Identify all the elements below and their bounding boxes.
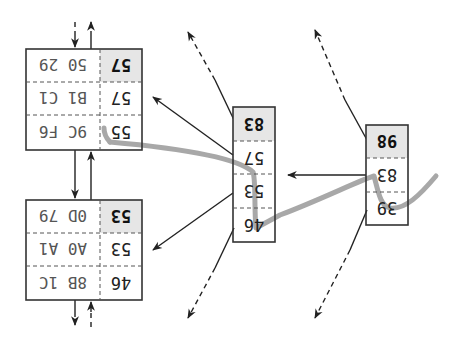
leaf-node-bottom: 53 0D 79 53 A0 A1 46 8B 1C — [26, 200, 142, 300]
root-key-0: 98 — [377, 131, 397, 151]
leaf-top-value-2: 9C F6 — [39, 122, 87, 141]
leaf-bottom-value-1: A0 A1 — [39, 239, 87, 258]
leaf-bottom-key-1: 53 — [111, 239, 131, 259]
edge-root-down-dashed — [315, 250, 350, 318]
edge-internal-up-solid — [215, 80, 234, 120]
edge-internal-up-dashed — [188, 32, 215, 80]
edge-internal-down-dashed — [188, 268, 215, 318]
leaf-top-value-0: 50 29 — [39, 55, 87, 74]
root-key-1: 83 — [377, 165, 397, 185]
leaf-bottom-key-0: 53 — [111, 206, 131, 226]
btree-diagram: 98 83 39 83 57 53 46 57 50 29 57 B1 C1 5… — [0, 0, 455, 339]
internal-key-2: 53 — [244, 181, 264, 201]
highlight-path-tip — [104, 128, 110, 142]
root-key-2: 39 — [377, 198, 397, 218]
internal-key-3: 46 — [244, 215, 264, 235]
internal-key-1: 57 — [244, 148, 264, 168]
edge-internal-to-leaf-bottom — [153, 193, 233, 250]
leaf-bottom-value-0: 0D 79 — [39, 206, 87, 225]
edge-root-up-solid — [345, 100, 367, 140]
leaf-top-value-1: B1 C1 — [39, 88, 87, 107]
leaf-bottom-key-2: 46 — [111, 273, 131, 293]
leaf-top-key-1: 57 — [111, 88, 131, 108]
edge-root-up-dashed — [315, 30, 345, 100]
edge-root-down-solid — [350, 210, 367, 250]
internal-key-0: 83 — [244, 114, 264, 134]
leaf-top-key-2: 55 — [111, 122, 131, 142]
leaf-bottom-value-2: 8B 1C — [39, 273, 87, 292]
edge-internal-down-solid — [215, 228, 234, 268]
leaf-node-top: 57 50 29 57 B1 C1 55 9C F6 — [26, 49, 142, 150]
leaf-top-key-0: 57 — [111, 55, 131, 75]
